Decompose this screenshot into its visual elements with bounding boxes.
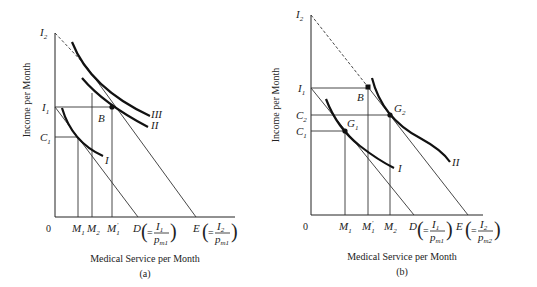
label-M1: M1 (71, 222, 85, 237)
caption-b: (b) (396, 266, 408, 278)
y-axis-title: Income per Month (21, 63, 32, 137)
point-B (366, 85, 371, 90)
label-B: B (357, 91, 364, 103)
svg-text:): ) (494, 218, 501, 241)
label-E: E ( = I2 pm2 ) (455, 218, 501, 245)
label-I1: I1 (41, 101, 49, 116)
svg-text:I2: I2 (479, 218, 488, 232)
label-origin: 0 (303, 221, 308, 232)
svg-text:I1: I1 (155, 220, 163, 234)
label-I2: I2 (39, 26, 48, 41)
svg-text:=: = (208, 227, 214, 238)
label-B: B (98, 112, 105, 124)
point-B (109, 104, 114, 109)
indifference-curve-I (62, 108, 103, 156)
label-G2: G2 (394, 102, 406, 117)
point-G2 (387, 112, 392, 117)
label-I2: I2 (295, 8, 304, 23)
label-curve-II: II (150, 119, 160, 131)
svg-text:I2: I2 (216, 220, 225, 234)
svg-text:pm2: pm2 (477, 231, 493, 245)
svg-text:=: = (147, 227, 153, 238)
budget-line-E (86, 66, 196, 217)
label-D: D ( = I1 pm1 ) (132, 220, 177, 247)
label-origin: 0 (46, 223, 51, 234)
svg-text:pm1: pm1 (214, 233, 229, 247)
x-axis-title: Medical Service per Month (90, 253, 200, 264)
svg-text:): ) (446, 218, 453, 241)
label-G1: G1 (347, 117, 358, 132)
label-C2: C2 (296, 109, 307, 124)
svg-text:E: E (192, 222, 200, 234)
label-curve-II: II (451, 156, 461, 168)
svg-text:E: E (455, 220, 463, 232)
label-curve-I: I (397, 162, 403, 174)
svg-text:): ) (231, 220, 238, 243)
label-I1: I1 (297, 82, 305, 97)
label-M2: M2 (86, 222, 100, 237)
label-C1: C1 (40, 131, 51, 146)
svg-text:pm1: pm1 (153, 233, 168, 247)
label-curve-I: I (104, 154, 110, 166)
panel-a: I2 I1 C1 B III II I 0 M1 M2 M1′ D ( = I1… (21, 26, 238, 280)
x-axis-title: Medical Service per Month (347, 251, 457, 262)
svg-text:D: D (408, 220, 417, 232)
svg-text:I1: I1 (431, 218, 439, 232)
budget-line-dashed (311, 15, 368, 87)
point-G1 (342, 128, 347, 133)
indifference-curve-II (372, 78, 450, 162)
y-axis-title: Income per Month (270, 68, 281, 142)
label-M1-prime: M1′ (361, 219, 375, 235)
label-M1-prime: M1′ (106, 221, 120, 237)
label-E: E ( = I2 pm1 ) (192, 220, 238, 247)
panel-b: I2 I1 C2 C1 B G2 G1 I II 0 M1 M1′ M2 D (… (270, 8, 501, 278)
label-C1: C1 (296, 125, 307, 140)
svg-text:pm1: pm1 (429, 231, 444, 245)
label-D: D ( = I1 pm1 ) (408, 218, 453, 245)
svg-text:): ) (170, 220, 177, 243)
label-M1: M1 (338, 220, 352, 235)
svg-text:=: = (471, 225, 477, 236)
svg-text:=: = (423, 225, 429, 236)
diagram-canvas: I2 I1 C1 B III II I 0 M1 M2 M1′ D ( = I1… (0, 0, 537, 287)
indifference-curve-I (326, 99, 394, 168)
label-M2: M2 (383, 220, 397, 235)
svg-text:D: D (132, 222, 141, 234)
caption-a: (a) (139, 268, 150, 280)
